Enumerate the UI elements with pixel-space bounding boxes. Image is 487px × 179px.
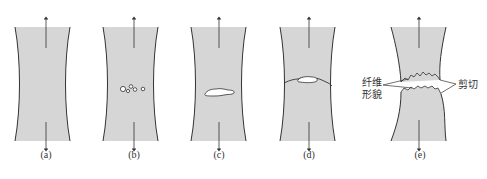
panel-label-d: (d)	[289, 149, 329, 160]
specimen-a	[15, 18, 70, 150]
annotation-fibrous-line1: 纤维	[362, 77, 382, 89]
annotation-shear: 剪切	[458, 79, 478, 91]
specimen-e	[383, 18, 456, 150]
annotation-fibrous-line2: 形貌	[362, 89, 382, 101]
panel-label-a: (a)	[26, 149, 66, 160]
specimen-c	[191, 18, 246, 150]
annotation-fibrous: 纤维 形貌	[362, 77, 382, 101]
panel-label-b: (b)	[114, 149, 154, 160]
panel-label-c: (c)	[199, 149, 239, 160]
specimen-b	[103, 18, 158, 150]
specimen-d	[280, 18, 335, 150]
panel-label-e: (e)	[400, 149, 440, 160]
shear-leader-lines	[440, 80, 456, 93]
